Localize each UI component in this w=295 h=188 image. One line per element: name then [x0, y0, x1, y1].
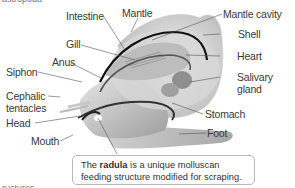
label-head: Head — [6, 118, 30, 129]
label-stomach: Stomach — [205, 109, 245, 120]
label-mantle-cavity: Mantle cavity — [223, 9, 282, 20]
callout-text-bold: radula — [100, 160, 128, 170]
label-shell: Shell — [238, 29, 260, 40]
label-salivary-gland-1: Salivary — [237, 72, 273, 83]
label-mouth: Mouth — [31, 136, 59, 147]
label-siphon: Siphon — [6, 67, 38, 78]
label-intestine: Intestine — [66, 11, 104, 22]
label-cephalic-tentacles-1: Cephalic — [6, 91, 45, 102]
label-cephalic-tentacles-2: tentacles — [6, 103, 46, 114]
label-mantle: Mantle — [122, 8, 152, 19]
label-heart: Heart — [237, 51, 262, 62]
label-salivary-gland-2: gland — [237, 84, 262, 95]
radula-callout: The radula is a unique molluscan feeding… — [72, 155, 255, 185]
callout-text-pre: The — [81, 160, 100, 170]
label-anus: Anus — [52, 57, 75, 68]
label-gill: Gill — [66, 39, 80, 50]
cropped-footer-text: ructures — [2, 183, 35, 188]
label-foot: Foot — [207, 128, 227, 139]
